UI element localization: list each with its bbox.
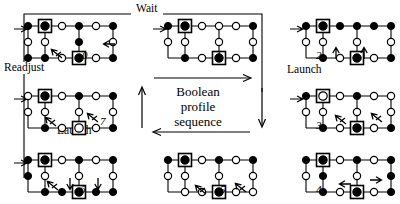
cell-4[interactable]: 4	[296, 150, 400, 204]
place-p-bot-2	[198, 54, 205, 61]
center-caption-line-2: profile	[130, 99, 266, 114]
place-p-top-2	[336, 22, 343, 29]
place-p-mid-0	[302, 108, 309, 115]
place-p-mid-5	[387, 108, 394, 115]
place-p-top-4	[232, 22, 239, 29]
place-p-mid-1	[41, 172, 48, 179]
place-p-mid-1	[319, 172, 326, 179]
place-p-bot-5	[109, 124, 116, 131]
cell-4-number: 4	[316, 184, 322, 195]
place-p-bot-2	[336, 124, 343, 131]
place-p-bot-5	[109, 54, 116, 61]
place-p-bot-2	[58, 188, 65, 195]
place-p-top-5	[109, 22, 116, 29]
place-p-top-3	[353, 22, 360, 29]
cell-6-number: 6	[80, 184, 86, 195]
place-p-top-3	[75, 92, 82, 99]
place-p-bot-5	[387, 188, 394, 195]
place-p-top-1	[319, 92, 327, 100]
center-caption-line-3: sequence	[130, 114, 266, 129]
place-p-top-4	[370, 22, 377, 29]
place-p-top-5	[249, 22, 256, 29]
place-p-mid-0	[24, 38, 31, 45]
fire-arrow-left	[340, 181, 352, 187]
place-p-bot-3	[75, 124, 83, 132]
place-p-top-0	[164, 156, 171, 163]
place-p-mid-0	[164, 38, 171, 45]
place-p-bot-2	[336, 54, 343, 61]
place-p-top-2	[198, 156, 205, 163]
place-p-bot-3	[353, 54, 361, 62]
place-p-mid-3	[353, 38, 360, 45]
place-p-top-1	[319, 22, 327, 30]
place-p-bot-2	[336, 188, 343, 195]
place-p-top-4	[370, 92, 377, 99]
place-p-top-0	[24, 156, 31, 163]
cell-1[interactable]: 1	[158, 16, 264, 70]
place-p-top-5	[249, 156, 256, 163]
place-p-top-1	[181, 22, 189, 30]
place-p-bot-1	[181, 188, 188, 195]
place-p-mid-3	[215, 38, 222, 45]
place-p-bot-4	[232, 188, 239, 195]
place-p-top-1	[319, 156, 327, 164]
place-p-top-3	[215, 156, 222, 163]
cell-7-number: 7	[100, 116, 106, 127]
place-p-top-5	[387, 22, 394, 29]
place-p-mid-5	[249, 38, 256, 45]
place-p-mid-3	[75, 172, 82, 179]
place-p-top-0	[302, 92, 309, 99]
cell-2[interactable]: 2	[296, 16, 400, 70]
cell-7[interactable]: 7	[18, 86, 124, 140]
center-caption-line-1: Boolean	[130, 84, 266, 99]
fire-arrow-right	[370, 177, 382, 183]
place-p-top-1	[41, 22, 49, 30]
place-p-bot-4	[232, 54, 239, 61]
cell-5[interactable]: 5	[158, 150, 264, 204]
cell-3[interactable]: 3	[296, 86, 400, 140]
place-p-top-5	[109, 156, 116, 163]
place-p-top-0	[302, 22, 309, 29]
place-p-mid-0	[164, 172, 171, 179]
place-p-mid-1	[319, 38, 326, 45]
place-p-top-3	[75, 156, 82, 163]
place-p-bot-4	[370, 124, 377, 131]
place-p-top-2	[58, 22, 65, 29]
place-p-top-2	[58, 92, 65, 99]
place-p-mid-3	[353, 108, 360, 115]
fire-arrow-diag-b	[371, 113, 382, 122]
place-p-bot-1	[181, 54, 188, 61]
place-p-mid-3	[353, 172, 360, 179]
place-p-mid-5	[387, 38, 394, 45]
place-p-top-4	[370, 156, 377, 163]
place-p-bot-5	[249, 188, 256, 195]
place-p-bot-4	[370, 188, 377, 195]
place-p-top-3	[353, 92, 360, 99]
place-p-bot-3	[353, 124, 361, 132]
place-p-top-4	[232, 156, 239, 163]
place-p-bot-4	[92, 54, 99, 61]
place-p-top-2	[198, 22, 205, 29]
place-p-bot-5	[387, 54, 394, 61]
cell-1-number: 1	[216, 50, 222, 61]
cell-0[interactable]: 0	[18, 16, 124, 70]
place-p-mid-3	[75, 108, 82, 115]
fire-arrow-diag	[51, 49, 62, 58]
fire-arrow-down-b	[95, 178, 101, 190]
place-p-bot-4	[92, 124, 99, 131]
place-p-top-3	[215, 22, 222, 29]
place-p-mid-1	[41, 38, 48, 45]
place-p-bot-1	[41, 54, 48, 61]
cell-2-number: 2	[316, 50, 322, 61]
place-p-bot-2	[58, 124, 65, 131]
cell-6[interactable]: 6	[18, 150, 124, 204]
place-p-bot-1	[41, 188, 48, 195]
cell-0-number: 0	[82, 50, 88, 61]
cell-3-number: 3	[316, 120, 322, 131]
place-p-top-2	[58, 156, 65, 163]
place-p-mid-3	[215, 172, 222, 179]
place-p-top-3	[353, 156, 360, 163]
place-p-top-4	[92, 156, 99, 163]
place-p-top-1	[181, 156, 189, 164]
